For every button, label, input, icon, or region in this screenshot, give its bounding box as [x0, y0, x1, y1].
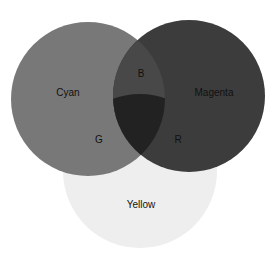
venn-diagram — [0, 0, 277, 262]
cyan-label: Cyan — [56, 87, 79, 98]
yellow-label: Yellow — [127, 199, 156, 210]
b-label: B — [138, 68, 145, 79]
magenta-label: Magenta — [195, 87, 234, 98]
r-label: R — [174, 134, 181, 145]
g-label: G — [95, 134, 103, 145]
